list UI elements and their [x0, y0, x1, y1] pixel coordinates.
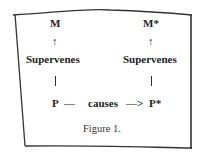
label-supervenes-left: Supervenes	[26, 53, 80, 65]
up-arrow-right-icon: ↑	[148, 35, 154, 47]
label-causes: causes	[88, 97, 118, 109]
label-p: P	[52, 97, 59, 109]
dash-connector: —	[64, 97, 75, 109]
connector-line-right	[151, 76, 152, 86]
up-arrow-left-icon: ↑	[52, 35, 58, 47]
label-p-star: P*	[149, 97, 161, 109]
figure-caption: Figure 1.	[83, 123, 121, 135]
label-m: M	[50, 17, 60, 29]
label-supervenes-right: Supervenes	[123, 53, 177, 65]
connector-line-left	[55, 76, 56, 86]
figure-border	[0, 0, 202, 159]
causes-arrow-icon: —>	[126, 97, 143, 109]
label-m-star: M*	[143, 17, 159, 29]
